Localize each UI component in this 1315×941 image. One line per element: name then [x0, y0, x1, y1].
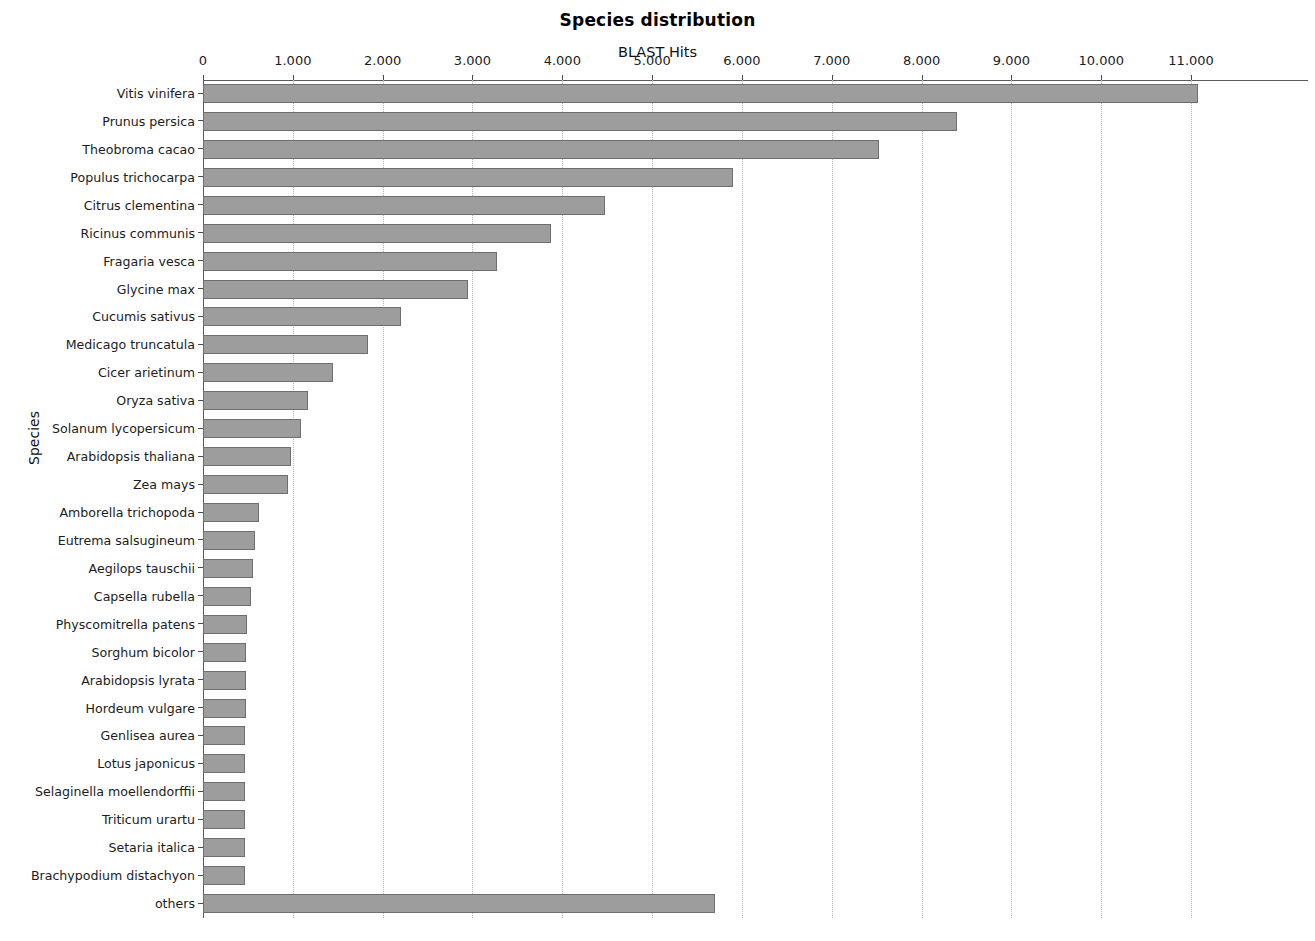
bar[interactable] — [203, 280, 468, 299]
y-axis-category-label: Selaginella moellendorffii — [5, 778, 195, 806]
bar[interactable] — [203, 866, 245, 885]
bar-row[interactable]: Capsella rubella — [203, 583, 1245, 611]
y-axis-tick — [198, 735, 203, 736]
bar-row[interactable]: Oryza sativa — [203, 387, 1245, 415]
x-axis-tick-label: 8.000 — [903, 53, 940, 68]
bar[interactable] — [203, 419, 301, 438]
y-axis-category-label: Prunus persica — [5, 108, 195, 136]
y-axis-category-label: others — [5, 890, 195, 918]
y-axis-tick — [198, 148, 203, 149]
bar[interactable] — [203, 112, 957, 131]
bar-row[interactable]: Aegilops tauschii — [203, 555, 1245, 583]
y-axis-category-label: Arabidopsis lyrata — [5, 667, 195, 695]
bar[interactable] — [203, 643, 246, 662]
bar-row[interactable]: Arabidopsis lyrata — [203, 667, 1245, 695]
bar[interactable] — [203, 726, 245, 745]
y-axis-category-label: Medicago truncatula — [5, 331, 195, 359]
bar[interactable] — [203, 252, 497, 271]
y-axis-tick — [198, 372, 203, 373]
y-axis-tick — [198, 288, 203, 289]
bar[interactable] — [203, 671, 246, 690]
y-axis-category-label: Sorghum bicolor — [5, 639, 195, 667]
bar-row[interactable]: Hordeum vulgare — [203, 695, 1245, 723]
y-axis-category-label: Setaria italica — [5, 834, 195, 862]
bar[interactable] — [203, 475, 288, 494]
y-axis-tick — [198, 204, 203, 205]
bar[interactable] — [203, 503, 259, 522]
y-axis-category-label: Citrus clementina — [5, 192, 195, 220]
bar-row[interactable]: Medicago truncatula — [203, 331, 1245, 359]
bar-row[interactable]: Populus trichocarpa — [203, 164, 1245, 192]
bar[interactable] — [203, 782, 245, 801]
bar[interactable] — [203, 699, 246, 718]
bar[interactable] — [203, 810, 245, 829]
y-axis-category-label: Amborella trichopoda — [5, 499, 195, 527]
y-axis-tick — [198, 679, 203, 680]
bar[interactable] — [203, 531, 255, 550]
y-axis-tick — [198, 260, 203, 261]
bar-row[interactable]: Cucumis sativus — [203, 303, 1245, 331]
bar-row[interactable]: Theobroma cacao — [203, 136, 1245, 164]
bar[interactable] — [203, 587, 251, 606]
bar-row[interactable]: Sorghum bicolor — [203, 639, 1245, 667]
y-axis-category-label: Brachypodium distachyon — [5, 862, 195, 890]
bar-row[interactable]: Glycine max — [203, 276, 1245, 304]
bar-row[interactable]: others — [203, 890, 1245, 918]
bar-row[interactable]: Citrus clementina — [203, 192, 1245, 220]
y-axis-category-label: Aegilops tauschii — [5, 555, 195, 583]
y-axis-tick — [198, 567, 203, 568]
x-axis-tick-label: 9.000 — [993, 53, 1030, 68]
bar[interactable] — [203, 84, 1198, 103]
y-axis-category-label: Lotus japonicus — [5, 750, 195, 778]
bar-row[interactable]: Arabidopsis thaliana — [203, 443, 1245, 471]
bar[interactable] — [203, 224, 551, 243]
y-axis-category-label: Hordeum vulgare — [5, 695, 195, 723]
bar-row[interactable]: Genlisea aurea — [203, 722, 1245, 750]
y-axis-category-label: Ricinus communis — [5, 220, 195, 248]
bar-row[interactable]: Vitis vinifera — [203, 80, 1245, 108]
bar[interactable] — [203, 838, 245, 857]
x-axis-tick-label: 5.000 — [634, 53, 671, 68]
bar-row[interactable]: Prunus persica — [203, 108, 1245, 136]
bar[interactable] — [203, 894, 715, 913]
y-axis-tick — [198, 316, 203, 317]
bar-row[interactable]: Amborella trichopoda — [203, 499, 1245, 527]
bar[interactable] — [203, 168, 733, 187]
bar-row[interactable]: Cicer arietinum — [203, 359, 1245, 387]
bar-row[interactable]: Ricinus communis — [203, 220, 1245, 248]
y-axis-category-label: Populus trichocarpa — [5, 164, 195, 192]
bar-row[interactable]: Fragaria vesca — [203, 248, 1245, 276]
y-axis-tick — [198, 232, 203, 233]
y-axis-category-label: Arabidopsis thaliana — [5, 443, 195, 471]
bar[interactable] — [203, 307, 401, 326]
x-axis-tick-label: 4.000 — [544, 53, 581, 68]
bar[interactable] — [203, 754, 245, 773]
y-axis-tick — [198, 819, 203, 820]
y-axis-category-label: Cucumis sativus — [5, 303, 195, 331]
bar[interactable] — [203, 363, 333, 382]
bar[interactable] — [203, 615, 247, 634]
y-axis-category-label: Triticum urartu — [5, 806, 195, 834]
bar[interactable] — [203, 447, 291, 466]
bar[interactable] — [203, 559, 253, 578]
bar[interactable] — [203, 140, 879, 159]
bar-row[interactable]: Setaria italica — [203, 834, 1245, 862]
bar-row[interactable]: Lotus japonicus — [203, 750, 1245, 778]
bar[interactable] — [203, 196, 605, 215]
y-axis-category-label: Capsella rubella — [5, 583, 195, 611]
bar-row[interactable]: Solanum lycopersicum — [203, 415, 1245, 443]
y-axis-tick — [198, 651, 203, 652]
bar-row[interactable]: Zea mays — [203, 471, 1245, 499]
y-axis-tick — [198, 763, 203, 764]
bar-row[interactable]: Physcomitrella patens — [203, 611, 1245, 639]
bar-row[interactable]: Triticum urartu — [203, 806, 1245, 834]
bar-row[interactable]: Selaginella moellendorffii — [203, 778, 1245, 806]
y-axis-tick — [198, 93, 203, 94]
bar-row[interactable]: Brachypodium distachyon — [203, 862, 1245, 890]
bar-row[interactable]: Eutrema salsugineum — [203, 527, 1245, 555]
bar[interactable] — [203, 391, 308, 410]
bar[interactable] — [203, 335, 368, 354]
y-axis-category-label: Solanum lycopersicum — [5, 415, 195, 443]
y-axis-category-label: Eutrema salsugineum — [5, 527, 195, 555]
plot-area: 01.0002.0003.0004.0005.0006.0007.0008.00… — [203, 80, 1245, 918]
